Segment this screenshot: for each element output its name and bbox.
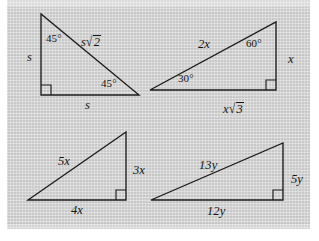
label-5-12-13-leg-horizontal: 12y [207,205,225,218]
label-30-60-90-leg-variable: x [223,102,229,116]
label-3-4-5-leg-vertical: 3x [133,164,145,177]
label-30-60-90-hypotenuse: 2x [198,38,210,51]
label-30-60-90-angle-top: 60° [246,38,262,49]
label-3-4-5-leg-horizontal: 4x [71,204,83,217]
label-30-60-90-angle-left: 30° [178,73,194,84]
radical-sign-icon: √ [229,102,235,116]
triangle-3-4-5-shape [28,132,126,200]
radical-sign-icon: √ [86,35,92,49]
label-30-60-90-leg-radicand: 3 [236,103,244,116]
label-45-45-90-hypotenuse: s√2 [80,35,101,49]
triangle-45-45-90-shape [41,14,139,95]
label-45-45-90-leg-vertical: s [27,51,32,64]
triangle-5-12-13-shape [151,143,283,200]
label-30-60-90-leg-horizontal: x√3 [222,102,244,116]
label-45-45-90-angle-top: 45° [46,33,62,44]
label-30-60-90-leg-vertical: x [288,53,294,66]
label-45-45-90-angle-bottom-right: 45° [101,78,117,89]
label-5-12-13-hypotenuse: 13y [199,159,217,172]
label-45-45-90-leg-horizontal: s [85,99,90,112]
triangle-30-60-90-shape [150,22,276,90]
label-45-45-90-hyp-radicand: 2 [93,36,101,49]
geometry-figure: 45° s 45° s s√2 2x 60° x 30° x√3 5x 3x 4… [0,0,319,241]
label-3-4-5-hypotenuse: 5x [58,155,70,168]
label-5-12-13-leg-vertical: 5y [291,173,303,186]
